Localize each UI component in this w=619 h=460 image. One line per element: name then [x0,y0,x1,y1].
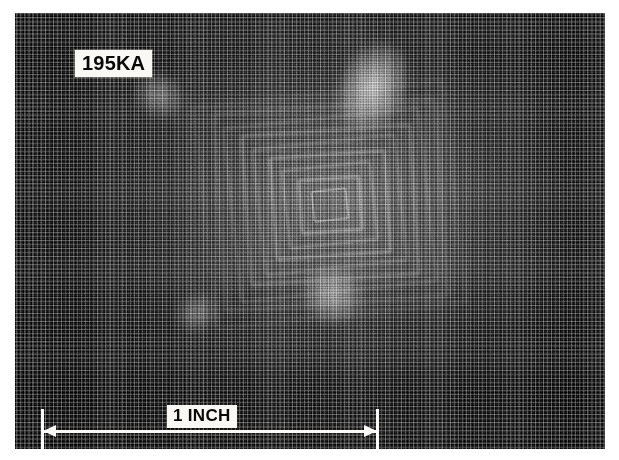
photograph-plate: 195KA 1 INCH [15,13,605,449]
sample-label: 195KA [75,50,152,77]
scale-bar: 1 INCH [41,409,379,449]
scale-bar-right-arrow-icon [364,425,377,437]
scale-bar-caption: 1 INCH [167,405,237,428]
moire-fringe-stack [15,13,605,449]
figure-root: 195KA 1 INCH [0,0,619,460]
moire-fringe-ring [193,80,468,330]
scale-bar-left-arrow-icon [43,425,56,437]
scale-bar-rule [43,430,377,433]
